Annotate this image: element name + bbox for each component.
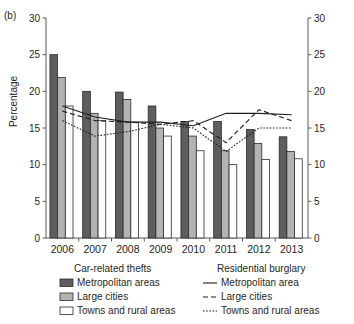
bar-2011 <box>221 151 229 238</box>
legend-swatch-white-swatch <box>60 307 73 315</box>
x-tick-2009: 2009 <box>149 243 173 255</box>
x-tick-2012: 2012 <box>247 243 271 255</box>
x-tick-2007: 2007 <box>83 243 107 255</box>
y-tick-left: 20 <box>29 86 41 97</box>
bar-2011 <box>214 121 222 238</box>
x-tick-2010: 2010 <box>182 243 206 255</box>
bar-2009 <box>156 128 164 238</box>
y-axis-right: 051015202530 <box>308 13 326 244</box>
legend: Car-related theftsResidential burglaryMe… <box>60 263 319 316</box>
y-tick-right: 15 <box>314 123 326 134</box>
bar-2012 <box>254 143 262 238</box>
x-tick-2011: 2011 <box>215 243 238 255</box>
legend-label-line: Towns and rural areas <box>221 305 319 316</box>
y-tick-right: 5 <box>314 196 320 207</box>
y-tick-right: 30 <box>314 13 326 24</box>
bar-2012 <box>246 129 254 238</box>
bar-2010 <box>196 151 204 238</box>
y-tick-right: 20 <box>314 86 326 97</box>
legend-title-residential-burglary: Residential burglary <box>217 263 305 274</box>
bar-2010 <box>181 121 189 238</box>
legend-label-line: Metropolitan area <box>221 277 299 288</box>
bar-2008 <box>115 92 123 238</box>
bar-series-group <box>50 55 302 238</box>
legend-label-bar: Metropolitan areas <box>77 277 160 288</box>
legend-swatch-dark-gray-swatch <box>60 279 73 287</box>
bar-2007 <box>90 113 98 238</box>
legend-label-bar: Towns and rural areas <box>77 305 175 316</box>
panel-label: (b) <box>4 10 16 21</box>
legend-label-line: Large cities <box>221 291 272 302</box>
chart-figure: (b) Percentage 051015202530 051015202530… <box>0 0 354 324</box>
y-axis-left: 051015202530 <box>29 13 46 244</box>
y-tick-left: 30 <box>29 13 41 24</box>
y-tick-right: 0 <box>314 233 320 244</box>
bar-2013 <box>295 159 303 238</box>
x-axis: 20062007200820092010201120122013 <box>46 238 308 255</box>
legend-title-car-related-thefts: Car-related thefts <box>74 263 151 274</box>
y-tick-right: 25 <box>314 49 326 60</box>
legend-label-bar: Large cities <box>77 291 128 302</box>
legend-swatch-light-gray-swatch <box>60 293 73 301</box>
y-tick-left: 10 <box>29 159 41 170</box>
bar-2011 <box>229 165 237 238</box>
chart-canvas: 051015202530 051015202530 20062007200820… <box>0 0 354 324</box>
y-axis-label: Percentage <box>8 57 19 147</box>
bar-2006 <box>50 55 58 238</box>
bar-2006 <box>65 106 73 238</box>
bar-2013 <box>287 151 295 238</box>
y-tick-right: 10 <box>314 159 326 170</box>
bar-2007 <box>98 121 106 238</box>
bar-2008 <box>123 99 131 238</box>
bar-2006 <box>58 77 66 238</box>
bar-2010 <box>189 136 197 238</box>
y-tick-left: 5 <box>34 196 40 207</box>
x-tick-2006: 2006 <box>51 243 75 255</box>
y-tick-left: 15 <box>29 123 41 134</box>
x-tick-2013: 2013 <box>280 243 304 255</box>
bar-2009 <box>164 136 172 238</box>
y-tick-left: 25 <box>29 49 41 60</box>
y-tick-left: 0 <box>34 233 40 244</box>
bar-2012 <box>262 160 270 238</box>
bar-2008 <box>131 122 139 238</box>
bar-2013 <box>279 137 287 238</box>
x-tick-2008: 2008 <box>116 243 140 255</box>
